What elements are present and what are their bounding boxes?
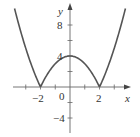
x-axis [13, 85, 131, 90]
origin-label: 0 [59, 90, 65, 102]
y-axis-label: y [57, 5, 63, 17]
function-graph: y x 8 4 −4 −2 0 2 [0, 0, 140, 137]
x-axis-label: x [124, 92, 130, 104]
y-tick-label-neg4: −4 [53, 112, 65, 124]
y-axis-arrow-icon [68, 3, 73, 10]
y-tick-label-8: 8 [57, 19, 63, 31]
x-tick-label-2: 2 [96, 92, 102, 104]
axis-labels: y x [57, 5, 130, 104]
y-axis [68, 3, 73, 133]
y-tick-label-4: 4 [57, 50, 63, 62]
x-tick-label-neg2: −2 [32, 92, 44, 104]
x-axis-arrow-icon [124, 85, 131, 90]
